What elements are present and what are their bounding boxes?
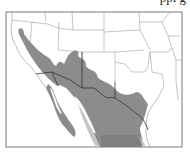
range-map — [0, 0, 190, 154]
range-southern-band — [101, 135, 142, 147]
